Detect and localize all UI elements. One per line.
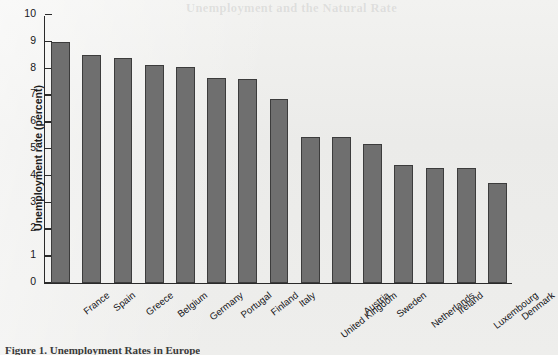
bar-ireland xyxy=(426,168,445,283)
y-tick-label: 5 xyxy=(30,141,36,153)
y-tick-label: 3 xyxy=(30,195,36,207)
y-tick-label: 10 xyxy=(24,7,36,19)
y-tick-label: 6 xyxy=(30,114,36,126)
x-label-germany: Germany xyxy=(208,289,246,322)
y-tick-label: 1 xyxy=(30,248,36,260)
y-tick-label: 9 xyxy=(30,34,36,46)
y-tick-label: 2 xyxy=(30,221,36,233)
y-tick-label: 8 xyxy=(30,61,36,73)
x-label-france: France xyxy=(81,289,111,316)
y-tick-label: 0 xyxy=(30,275,36,287)
bar-series xyxy=(45,16,512,283)
x-label-spain: Spain xyxy=(111,289,137,313)
x-label-portugal: Portugal xyxy=(238,289,273,320)
y-tick-label: 4 xyxy=(30,168,36,180)
x-label-finland: Finland xyxy=(268,289,300,317)
bar-italy xyxy=(270,99,289,283)
x-label-sweden: Sweden xyxy=(394,289,428,319)
plot-area: 109876543210 xyxy=(44,16,512,284)
bar-luxembourg xyxy=(457,168,476,283)
bar-belgium xyxy=(145,65,164,283)
y-tick-label: 7 xyxy=(30,87,36,99)
bar-germany xyxy=(176,67,195,283)
bar-netherlands xyxy=(394,165,413,283)
bar-france xyxy=(51,42,70,283)
bar-finland xyxy=(238,79,257,283)
figure-caption: Figure 1. Unemployment Rates in Europe xyxy=(5,344,200,355)
x-label-belgium: Belgium xyxy=(175,289,209,319)
x-label-italy: Italy xyxy=(297,289,318,309)
x-axis-category-labels: FranceSpainGreeceBelgiumGermanyPortugalF… xyxy=(44,286,512,346)
bar-spain xyxy=(82,55,101,283)
bar-chart: Unemployment rate (percent) 109876543210… xyxy=(0,0,558,355)
bar-sweden xyxy=(363,144,382,283)
bar-portugal xyxy=(207,78,226,283)
x-label-greece: Greece xyxy=(144,289,176,317)
bar-denmark xyxy=(488,183,507,284)
bar-united-kingdom xyxy=(301,137,320,283)
bar-greece xyxy=(114,58,133,283)
bar-austria xyxy=(332,137,351,283)
